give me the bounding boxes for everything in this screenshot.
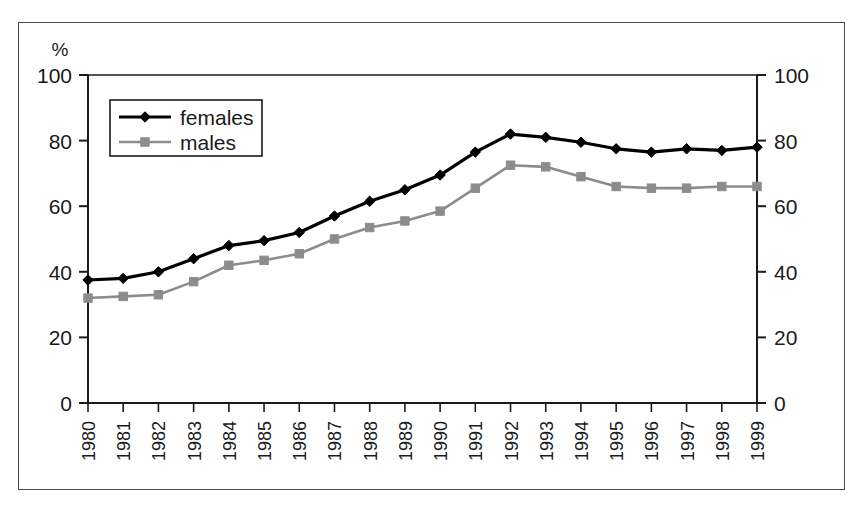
data-point-marker bbox=[436, 207, 444, 215]
y-tick-label-left: 100 bbox=[37, 64, 72, 87]
data-point-marker bbox=[577, 172, 585, 180]
data-point-marker bbox=[542, 163, 550, 171]
data-point-marker bbox=[225, 261, 233, 269]
data-point-marker bbox=[260, 256, 268, 264]
data-point-marker bbox=[612, 182, 620, 190]
data-point-marker bbox=[682, 184, 690, 192]
x-tick-label: 1981 bbox=[114, 421, 134, 461]
data-point-marker bbox=[400, 185, 410, 195]
y-tick-label-left: 40 bbox=[49, 261, 72, 284]
x-tick-label: 1998 bbox=[713, 421, 733, 461]
legend-label: males bbox=[180, 131, 236, 154]
x-tick-label: 1997 bbox=[678, 421, 698, 461]
data-point-marker bbox=[188, 253, 198, 263]
y-tick-label-right: 40 bbox=[774, 261, 797, 284]
chart-figure: 002020404060608080100100%198019811982198… bbox=[0, 0, 865, 509]
data-point-marker bbox=[611, 144, 621, 154]
y-tick-label-right: 0 bbox=[774, 392, 786, 415]
data-point-marker bbox=[681, 144, 691, 154]
data-point-marker bbox=[141, 138, 149, 146]
data-point-marker bbox=[471, 184, 479, 192]
legend-label: females bbox=[180, 106, 254, 129]
y-tick-label-left: 0 bbox=[60, 392, 72, 415]
data-point-marker bbox=[717, 145, 727, 155]
data-point-marker bbox=[718, 182, 726, 190]
x-tick-label: 1995 bbox=[607, 421, 627, 461]
data-point-marker bbox=[189, 277, 197, 285]
data-point-marker bbox=[224, 240, 234, 250]
data-point-marker bbox=[365, 223, 373, 231]
data-point-marker bbox=[119, 292, 127, 300]
data-point-marker bbox=[294, 227, 304, 237]
x-tick-label: 1991 bbox=[466, 421, 486, 461]
data-point-marker bbox=[576, 137, 586, 147]
data-point-marker bbox=[330, 235, 338, 243]
data-point-marker bbox=[541, 132, 551, 142]
data-point-marker bbox=[506, 161, 514, 169]
data-point-marker bbox=[84, 294, 92, 302]
data-point-marker bbox=[329, 211, 339, 221]
data-point-marker bbox=[154, 291, 162, 299]
data-point-marker bbox=[401, 217, 409, 225]
data-point-marker bbox=[753, 182, 761, 190]
y-tick-label-right: 20 bbox=[774, 326, 797, 349]
y-tick-label-left: 60 bbox=[49, 195, 72, 218]
x-tick-group: 1980198119821983198419851986198719881989… bbox=[79, 403, 768, 461]
y-tick-label-right: 60 bbox=[774, 195, 797, 218]
x-tick-label: 1989 bbox=[396, 421, 416, 461]
x-tick-label: 1987 bbox=[325, 421, 345, 461]
y-tick-label-left: 80 bbox=[49, 130, 72, 153]
x-tick-label: 1988 bbox=[361, 421, 381, 461]
x-tick-label: 1996 bbox=[642, 421, 662, 461]
y-axis-unit-label: % bbox=[52, 39, 69, 60]
series-line bbox=[88, 165, 757, 298]
x-tick-label: 1992 bbox=[502, 421, 522, 461]
y-tick-label-left: 20 bbox=[49, 326, 72, 349]
x-tick-label: 1999 bbox=[748, 421, 768, 461]
x-tick-label: 1994 bbox=[572, 421, 592, 461]
data-point-marker bbox=[118, 273, 128, 283]
data-point-marker bbox=[752, 142, 762, 152]
y-tick-label-right: 80 bbox=[774, 130, 797, 153]
x-tick-label: 1985 bbox=[255, 421, 275, 461]
x-tick-label: 1982 bbox=[149, 421, 169, 461]
x-tick-label: 1990 bbox=[431, 421, 451, 461]
data-point-marker bbox=[153, 267, 163, 277]
data-point-marker bbox=[364, 196, 374, 206]
legend: femalesmales bbox=[110, 100, 262, 156]
x-tick-label: 1986 bbox=[290, 421, 310, 461]
x-tick-label: 1984 bbox=[220, 421, 240, 461]
data-point-marker bbox=[646, 147, 656, 157]
data-point-marker bbox=[647, 184, 655, 192]
x-tick-label: 1983 bbox=[185, 421, 205, 461]
data-point-marker bbox=[83, 275, 93, 285]
line-chart: 002020404060608080100100%198019811982198… bbox=[0, 0, 865, 509]
x-tick-label: 1993 bbox=[537, 421, 557, 461]
data-point-marker bbox=[295, 250, 303, 258]
data-point-marker bbox=[259, 235, 269, 245]
x-tick-label: 1980 bbox=[79, 421, 99, 461]
y-tick-label-right: 100 bbox=[774, 64, 809, 87]
